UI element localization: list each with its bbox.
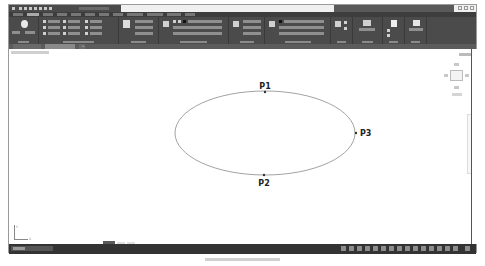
drawing-geometry: P1P2P3	[0, 0, 485, 266]
point-marker-p1[interactable]	[264, 91, 266, 93]
caption-placeholder	[205, 258, 280, 261]
point-label-p2: P2	[258, 179, 269, 188]
point-marker-p2[interactable]	[263, 174, 265, 176]
point-label-p3: P3	[360, 129, 371, 138]
point-marker-p3[interactable]	[355, 132, 357, 134]
ellipse-entity[interactable]	[175, 91, 355, 175]
point-label-p1: P1	[259, 82, 271, 91]
